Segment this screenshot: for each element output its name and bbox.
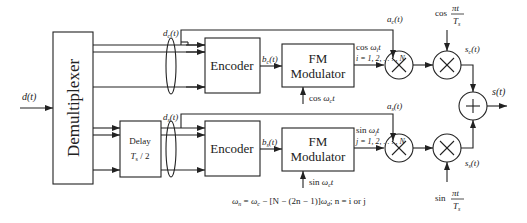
delay-block	[120, 121, 161, 177]
bus-ellipse-top	[166, 38, 176, 94]
bc-label: bc(t)	[262, 54, 278, 65]
delay-label-line1: Delay	[129, 136, 151, 146]
svg-text:sin: sin	[435, 193, 446, 203]
as-label: as(t)	[387, 101, 402, 112]
ac-label: ac(t)	[387, 14, 403, 25]
delay-label-line2: Ts / 2	[131, 151, 150, 162]
svg-text:Ts: Ts	[453, 201, 461, 212]
carrier-top-in: cos ωct	[309, 93, 335, 104]
ds-label: ds(t)	[163, 112, 178, 123]
encoder-bottom-label: Encoder	[210, 141, 254, 156]
encoder-top-label: Encoder	[210, 58, 254, 73]
pulse-top-label: cos πt Ts	[435, 3, 464, 27]
carrier-bottom-in: sin ωct	[309, 177, 334, 188]
svg-text:cos: cos	[435, 8, 447, 18]
fm-bottom-line1: FM	[309, 134, 328, 149]
carrier-bottom-out: sin ωjt	[356, 125, 380, 136]
input-label: d(t)	[22, 91, 37, 103]
bus-ellipse-bottom	[166, 121, 176, 177]
svg-text:πt: πt	[452, 188, 460, 198]
sc-label: sc(t)	[465, 44, 480, 55]
svg-text:Ts: Ts	[453, 16, 461, 27]
dc-label: dc(t)	[163, 28, 179, 39]
pulse-bottom-label: sin πt Ts	[435, 188, 464, 212]
carrier-top-out: cos ωit	[356, 42, 381, 53]
bs-label: bs(t)	[262, 137, 277, 148]
fm-top-line2: Modulator	[291, 66, 347, 81]
fm-bottom-line2: Modulator	[291, 149, 347, 164]
qpsk-fm-block-diagram: d(t) Demultiplexer Delay Ts / 2 Encoder …	[0, 0, 527, 223]
bottom-index-label: j = 1, 2, . . . , N	[355, 137, 406, 146]
fm-top-line1: FM	[309, 51, 328, 66]
top-index-label: i = 1, 2, . . . , N	[356, 54, 406, 63]
frequency-equation: ωn = ωc − [N − (2n − 1)]ωd; n = i or j	[232, 196, 366, 207]
demultiplexer-label: Demultiplexer	[64, 59, 83, 158]
output-label: s(t)	[492, 86, 506, 98]
svg-text:πt: πt	[452, 3, 460, 13]
ss-label: ss(t)	[465, 158, 479, 169]
